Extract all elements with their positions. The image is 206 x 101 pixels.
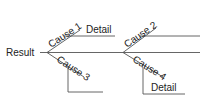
cause-1-label: Cause 1 <box>46 20 84 50</box>
result-label: Result <box>6 47 35 58</box>
cause-2-label: Cause 2 <box>122 19 159 50</box>
fishbone-diagram: Result Cause 1 Detail Cause 2 Cause 3 Ca… <box>0 0 206 101</box>
cause-4-detail-label: Detail <box>151 82 177 93</box>
cause-3-label: Cause 3 <box>55 53 93 83</box>
cause-4-label: Cause 4 <box>131 53 169 82</box>
cause-1-detail-label: Detail <box>86 24 112 35</box>
